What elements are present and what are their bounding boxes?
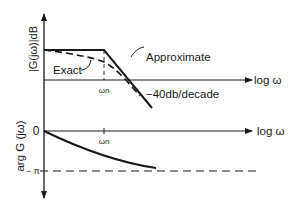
approximate-label: Approximate [146,51,211,63]
slope-label: −40db/decade [146,88,219,100]
bode-svg: |G(jω)|dB Approximate Exact log ω ωn −40… [0,0,298,210]
phase-wn-label: ωn [99,137,110,146]
approximate-leader [131,47,144,57]
magnitude-wn-label: ωn [99,86,110,95]
exact-leader [81,60,91,70]
bode-diagram: |G(jω)|dB Approximate Exact log ω ωn −40… [0,0,298,210]
magnitude-y-label: |G(jω)|dB [27,26,39,72]
phase-zero-label: 0 [33,124,40,138]
magnitude-plot: |G(jω)|dB Approximate Exact log ω ωn −40… [27,14,282,108]
phase-plot: arg G (jω) 0 − π ωn log ω [14,108,285,198]
exact-label: Exact [53,64,83,76]
phase-x-label: log ω [257,125,285,137]
magnitude-x-label: log ω [254,74,282,86]
approximate-asymptote [44,50,152,108]
phase-y-label: arg G (jω) [14,120,26,171]
phase-minus-pi-label: − π [26,166,39,176]
